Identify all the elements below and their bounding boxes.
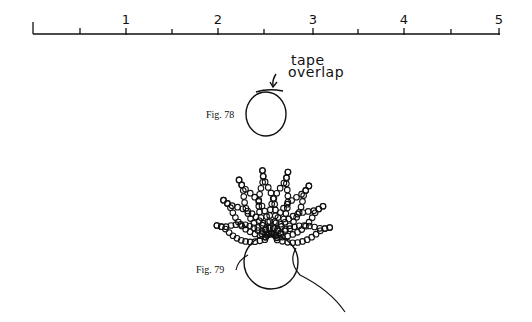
- ruler-label-5: 5: [495, 12, 503, 27]
- ruler-label-3: 3: [309, 12, 317, 27]
- ruler-label-1: 1: [122, 12, 130, 27]
- fig79-label: Fig. 79: [196, 264, 224, 275]
- diagram-canvas: [0, 0, 532, 322]
- ruler: [33, 22, 500, 35]
- annotation-overlap: overlap: [288, 66, 344, 78]
- ruler-label-4: 4: [400, 12, 408, 27]
- fig78-ring: [246, 74, 286, 136]
- ruler-label-2: 2: [214, 12, 222, 27]
- fig78-label: Fig. 78: [206, 109, 234, 120]
- fig79-flower: [214, 168, 345, 312]
- bead-loops: [214, 168, 332, 246]
